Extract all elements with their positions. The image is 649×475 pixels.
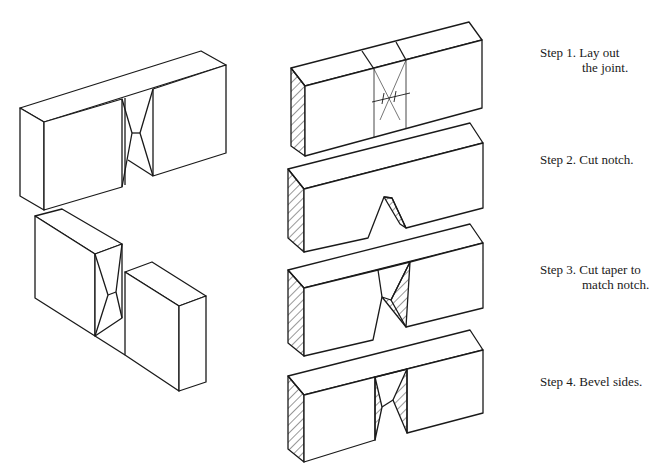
- exploded-joint-bottom: [35, 209, 206, 391]
- step-1-label: Step 1. Lay out the joint.: [540, 45, 628, 75]
- assembled-joint-top: [20, 51, 226, 210]
- step-3-label: Step 3. Cut taper to match notch.: [540, 262, 649, 292]
- step-2-label: Step 2. Cut notch.: [540, 152, 634, 167]
- step-4-label: Step 4. Bevel sides.: [540, 374, 642, 389]
